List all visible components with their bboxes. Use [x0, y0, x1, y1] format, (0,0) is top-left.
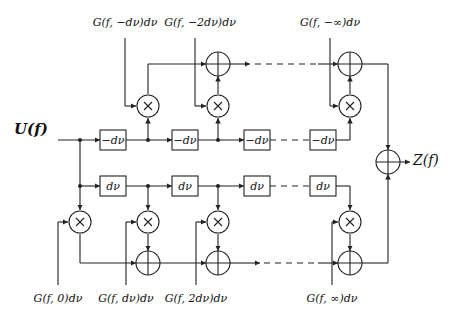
delay-label: −dν	[174, 134, 197, 147]
delay-label: dν	[316, 180, 330, 193]
input-label: U(f)	[14, 120, 48, 138]
gain-label-top: G(f, −dν)dν	[93, 16, 158, 29]
gain-label-bottom: G(f, 0)dν	[34, 292, 83, 305]
delay-label: −dν	[102, 134, 125, 147]
diagram-svg: −dν −dν −dν −dν dν dν dν dν	[0, 0, 460, 321]
gain-label-bottom: G(f, dν)dν	[98, 292, 154, 305]
delay-label: −dν	[246, 134, 269, 147]
delay-label: dν	[106, 180, 120, 193]
output-label: Z(f)	[412, 152, 439, 168]
delay-label: −dν	[312, 134, 335, 147]
gain-label-bottom: G(f, ∞)dν	[307, 292, 358, 305]
gain-label-top: G(f, −∞)dν	[300, 16, 360, 29]
delay-label: dν	[178, 180, 192, 193]
gain-label-bottom: G(f, 2dν)dν	[165, 292, 228, 305]
gain-label-top: G(f, −2dν)dν	[164, 16, 236, 29]
delay-label: dν	[250, 180, 264, 193]
tapped-delay-line-diagram: −dν −dν −dν −dν dν dν dν dν	[0, 0, 460, 321]
